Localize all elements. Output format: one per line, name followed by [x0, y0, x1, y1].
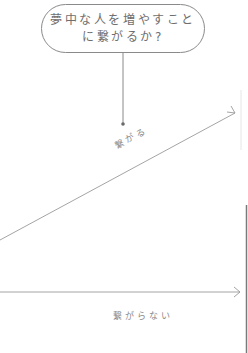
connector-dot	[121, 122, 125, 126]
yes-arrowhead-icon	[227, 106, 235, 113]
question-line-2: に繋がるか?	[82, 29, 164, 46]
question-line-1: 夢中な人を増やすこと	[50, 12, 196, 29]
yes-arrow-line	[0, 113, 235, 240]
question-bubble: 夢中な人を増やすこと に繋がるか?	[41, 4, 205, 53]
branch-label-no: 繋がらない	[113, 309, 173, 322]
